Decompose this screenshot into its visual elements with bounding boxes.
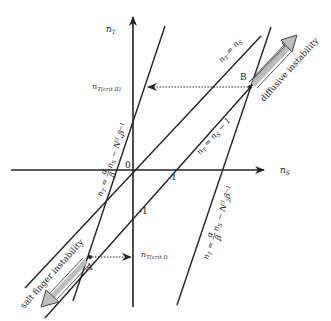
steep-right-line-label: nT = α β nS − N32β−1 [198, 183, 240, 262]
crit-i-label: nT(crit I) [141, 250, 168, 260]
instability-diagram: nS nT 0 1 -1 nT = nS nT = nS − 1 nT = α … [0, 0, 331, 321]
line-steep-right [177, 27, 271, 305]
ns-axis-label: nS [280, 165, 290, 176]
shifted-line-label: nT = nS − 1 [195, 116, 234, 157]
crit-ii-label: nT(crit II) [92, 82, 121, 92]
svg-text:nS − N32β−1: nS − N32β−1 [210, 184, 236, 232]
identity-line-label: nT = nS [217, 36, 244, 65]
point-b-label: B [240, 72, 247, 82]
point-a [88, 255, 92, 259]
origin-label: 0 [125, 160, 131, 170]
svg-text:nT =: nT = [201, 241, 216, 261]
point-b [248, 85, 252, 89]
svg-text:β: β [213, 234, 223, 243]
nt-axis-label: nT [106, 24, 117, 35]
